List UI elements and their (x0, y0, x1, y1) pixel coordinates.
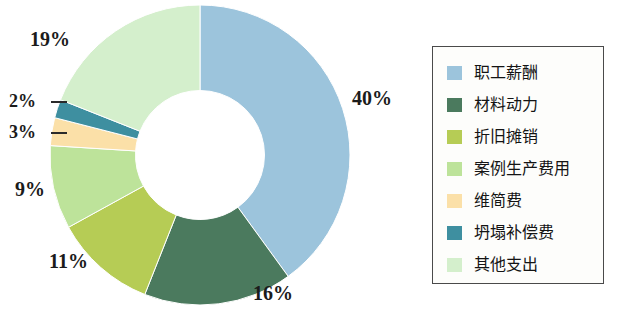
legend-color-swatch (447, 130, 462, 144)
legend-item[interactable]: 案例生产费用 (447, 153, 603, 185)
data-label-other: 19% (30, 29, 70, 49)
legend-item-label: 材料动力 (474, 97, 538, 113)
donut-slice-group (50, 5, 350, 305)
legend-item[interactable]: 职工薪酬 (447, 57, 603, 89)
legend-item[interactable]: 其他支出 (447, 249, 603, 281)
legend-item-label: 其他支出 (474, 257, 538, 273)
leader-line-maintenance (51, 132, 67, 134)
data-label-depreciation: 11% (49, 251, 88, 271)
leader-line-collapse-comp (51, 101, 67, 103)
legend-color-swatch (447, 66, 462, 80)
legend-color-swatch (447, 258, 462, 272)
legend: 职工薪酬材料动力折旧摊销案例生产费用维简费坍塌补偿费其他支出 (432, 46, 604, 284)
legend-item-label: 维简费 (474, 193, 522, 209)
legend-item-label: 案例生产费用 (474, 161, 570, 177)
legend-item[interactable]: 折旧摊销 (447, 121, 603, 153)
data-label-employee-comp: 40% (352, 88, 392, 108)
legend-item-list: 职工薪酬材料动力折旧摊销案例生产费用维简费坍塌补偿费其他支出 (447, 57, 603, 281)
data-label-maintenance: 3% (9, 123, 36, 141)
donut-chart-figure: 40% 16% 11% 9% 3% 2% 19% 职工薪酬材料动力折旧摊销案例生… (0, 0, 617, 313)
legend-item-label: 折旧摊销 (474, 129, 538, 145)
legend-color-swatch (447, 98, 462, 112)
legend-item-label: 坍塌补偿费 (474, 225, 554, 241)
legend-item[interactable]: 材料动力 (447, 89, 603, 121)
legend-item[interactable]: 坍塌补偿费 (447, 217, 603, 249)
legend-item-label: 职工薪酬 (474, 65, 538, 81)
data-label-materials-power: 16% (253, 283, 293, 303)
legend-color-swatch (447, 194, 462, 208)
data-label-case-production: 9% (15, 179, 45, 199)
donut-chart-area: 40% 16% 11% 9% 3% 2% 19% (0, 0, 420, 313)
data-label-collapse-comp: 2% (9, 92, 36, 110)
legend-color-swatch (447, 162, 462, 176)
legend-item[interactable]: 维简费 (447, 185, 603, 217)
legend-color-swatch (447, 226, 462, 240)
